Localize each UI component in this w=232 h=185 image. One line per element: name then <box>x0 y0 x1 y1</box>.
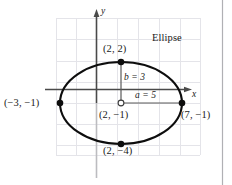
ellipse-figure: (2, 2) (−3, −1) (7, −1) (2, −4) (2, −1) … <box>0 0 232 185</box>
label-semi-major-axis: a = 5 <box>135 91 156 101</box>
label-bottom-vertex: (2, −4) <box>103 146 132 157</box>
label-semi-minor-axis: b = 3 <box>124 73 145 83</box>
label-y-axis: y <box>101 7 105 17</box>
y-axis <box>94 9 100 178</box>
label-right-vertex: (7, −1) <box>181 110 210 121</box>
point-right-vertex <box>179 100 186 107</box>
point-center <box>118 100 124 106</box>
figure-title: Ellipse <box>152 33 182 44</box>
label-left-vertex: (−3, −1) <box>4 98 39 109</box>
ellipse-graph-canvas <box>0 0 232 185</box>
x-axis <box>45 87 192 93</box>
point-left-vertex <box>57 100 64 107</box>
label-center-point: (2, −1) <box>99 110 128 121</box>
label-top-vertex: (2, 2) <box>103 44 126 55</box>
label-x-axis: x <box>192 90 196 100</box>
point-top-vertex <box>118 59 125 66</box>
